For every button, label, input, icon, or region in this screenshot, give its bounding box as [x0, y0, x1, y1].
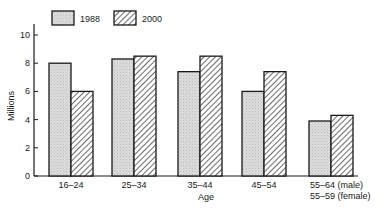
bar-1988-2 [178, 72, 200, 176]
bar-2000-3 [264, 72, 286, 176]
x-axis-title: Age [198, 192, 214, 202]
x-tick-label: 55–59 (female) [310, 191, 371, 201]
y-tick-label: 2 [25, 143, 30, 153]
y-tick-label: 4 [25, 115, 30, 125]
y-axis-title: Millions [6, 91, 16, 122]
y-tick-label: 10 [20, 30, 30, 40]
bar-2000-0 [71, 91, 93, 176]
bars [49, 56, 353, 176]
bar-2000-2 [200, 56, 222, 176]
x-tick-label: 55–64 (male) [310, 180, 363, 190]
x-tick-label: 35–44 [187, 180, 212, 190]
bar-2000-1 [134, 56, 156, 176]
x-tick-label: 25–34 [121, 180, 146, 190]
bar-chart: 19882000 0246810 16–2425–3435–4445–5455–… [0, 0, 386, 214]
bar-1988-3 [242, 91, 264, 176]
legend-label-2000: 2000 [142, 14, 162, 24]
y-tick-label: 6 [25, 86, 30, 96]
y-tick-label: 8 [25, 58, 30, 68]
legend-swatch-1988 [52, 11, 74, 25]
bar-1988-1 [112, 59, 134, 176]
legend-label-1988: 1988 [80, 14, 100, 24]
bar-1988-4 [309, 121, 331, 176]
y-tick-label: 0 [25, 171, 30, 181]
x-tick-label: 45–54 [251, 180, 276, 190]
x-tick-labels: 16–2425–3435–4445–5455–64 (male)55–59 (f… [58, 180, 370, 201]
bar-1988-0 [49, 63, 71, 176]
bar-2000-4 [331, 115, 353, 176]
x-tick-label: 16–24 [58, 180, 83, 190]
legend: 19882000 [52, 11, 162, 25]
legend-swatch-2000 [114, 11, 136, 25]
